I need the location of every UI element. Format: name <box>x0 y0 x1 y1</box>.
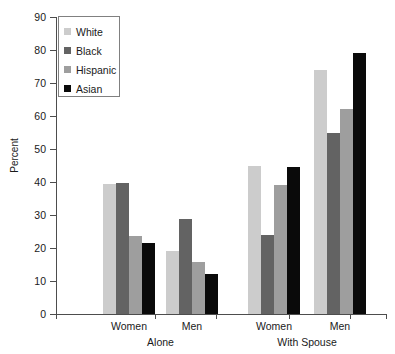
bar-hispanic-2 <box>274 185 287 314</box>
bar-black-3 <box>327 133 340 315</box>
x-axis-super-label: With Spouse <box>252 336 362 348</box>
bar-asian-0 <box>142 243 155 314</box>
legend-item-white[interactable]: White <box>64 22 119 41</box>
bar-white-1 <box>166 251 179 314</box>
x-tick <box>289 314 290 319</box>
legend-swatch-icon <box>64 28 71 35</box>
y-tick-label: 30 <box>16 210 46 220</box>
bar-asian-3 <box>353 53 366 314</box>
y-tick-label: 80 <box>16 45 46 55</box>
x-axis-group-label: Women <box>94 320 164 332</box>
y-tick-label: 40 <box>16 177 46 187</box>
x-tick <box>155 314 156 319</box>
x-axis-line <box>56 314 386 315</box>
y-tick-label: 10 <box>16 276 46 286</box>
x-axis-super-label: Alone <box>106 336 216 348</box>
bar-asian-1 <box>205 274 218 314</box>
legend: WhiteBlackHispanicAsian <box>58 16 120 97</box>
y-tick-label: 20 <box>16 243 46 253</box>
x-tick <box>216 314 217 319</box>
legend-label: White <box>76 27 103 37</box>
legend-label: Black <box>76 46 102 56</box>
legend-label: Hispanic <box>76 65 116 75</box>
x-axis-group-label: Women <box>239 320 309 332</box>
bar-white-3 <box>314 70 327 314</box>
bar-black-2 <box>261 235 274 314</box>
bar-hispanic-0 <box>129 236 142 314</box>
legend-item-asian[interactable]: Asian <box>64 79 119 98</box>
legend-label: Asian <box>76 84 102 94</box>
bar-black-1 <box>179 219 192 314</box>
y-tick-label: 0 <box>16 309 46 319</box>
y-tick-label: 90 <box>16 12 46 22</box>
legend-swatch-icon <box>64 85 71 92</box>
bar-white-2 <box>248 166 261 315</box>
y-tick-label: 70 <box>16 78 46 88</box>
bar-hispanic-3 <box>340 109 353 314</box>
legend-swatch-icon <box>64 47 71 54</box>
legend-swatch-icon <box>64 66 71 73</box>
bar-black-0 <box>116 183 129 314</box>
x-axis-group-label: Men <box>305 320 375 332</box>
x-axis-group-label: Men <box>157 320 227 332</box>
bar-chart: Percent 0102030405060708090 WomenMenWome… <box>0 0 395 354</box>
x-tick <box>386 314 387 319</box>
y-tick-label: 60 <box>16 111 46 121</box>
x-tick <box>56 314 57 319</box>
y-tick-label: 50 <box>16 144 46 154</box>
legend-item-black[interactable]: Black <box>64 41 119 60</box>
bar-hispanic-1 <box>192 262 205 314</box>
bar-white-0 <box>103 184 116 314</box>
x-tick <box>350 314 351 319</box>
bar-asian-2 <box>287 167 300 314</box>
legend-item-hispanic[interactable]: Hispanic <box>64 60 119 79</box>
